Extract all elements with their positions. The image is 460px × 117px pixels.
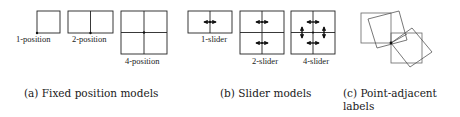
model-1-position bbox=[36, 11, 60, 34]
label-4-slider: 4-slider bbox=[303, 56, 329, 66]
panel-b-slider bbox=[188, 11, 335, 54]
rotated-square-upper bbox=[368, 11, 407, 48]
caption-c-line2: labels bbox=[343, 100, 374, 113]
label-1-position: 1-position bbox=[16, 34, 51, 44]
label-4-position: 4-position bbox=[125, 56, 160, 66]
model-1-slider bbox=[188, 11, 232, 33]
caption-b: (b) Slider models bbox=[220, 87, 311, 100]
panel-c-point-adjacent bbox=[361, 11, 432, 67]
rotated-square-lower bbox=[391, 28, 432, 67]
anchor-point-icon bbox=[143, 31, 145, 33]
caption-c-line1: (c) Point-adjacent bbox=[343, 87, 437, 100]
label-2-slider: 2-slider bbox=[252, 56, 278, 66]
label-1-slider: 1-slider bbox=[201, 34, 227, 44]
caption-a: (a) Fixed position models bbox=[24, 87, 158, 100]
panel-a-fixed-position bbox=[36, 11, 167, 54]
model-2-slider bbox=[240, 11, 284, 54]
model-2-position bbox=[68, 11, 113, 34]
axis-aligned-square-upper bbox=[361, 13, 391, 43]
model-4-position bbox=[121, 11, 167, 54]
anchor-point-icon bbox=[390, 42, 393, 45]
label-2-position: 2-position bbox=[72, 34, 107, 44]
model-4-slider bbox=[291, 11, 335, 54]
